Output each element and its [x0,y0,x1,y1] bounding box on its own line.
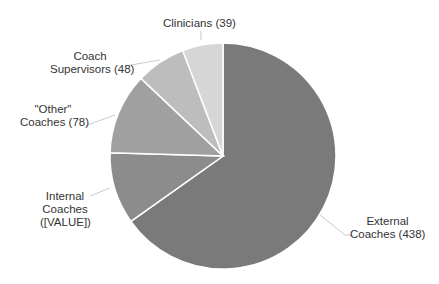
label-other-line1: "Other" [20,103,86,116]
label-supervisors: Coach Supervisors (48) [50,50,130,76]
label-external-line2: Coaches (438) [350,228,425,241]
label-external-line1: External [350,215,425,228]
label-internal-line3: ([VALUE]) [40,216,90,229]
pie-slices [110,43,336,269]
label-internal-line2: Coaches [40,203,90,216]
leader-internal [90,188,110,196]
pie-chart [0,0,439,284]
label-supervisors-line1: Coach [50,50,130,63]
label-internal: Internal Coaches ([VALUE]) [40,190,90,229]
label-other: "Other" Coaches (78) [20,103,86,129]
label-external: External Coaches (438) [350,215,425,241]
label-supervisors-line2: Supervisors (48) [50,63,130,76]
leader-other [85,115,115,126]
leader-external [320,215,352,235]
label-other-line2: Coaches (78) [20,116,86,129]
label-clinicians: Clinicians (39) [163,17,236,30]
label-internal-line1: Internal [40,190,90,203]
